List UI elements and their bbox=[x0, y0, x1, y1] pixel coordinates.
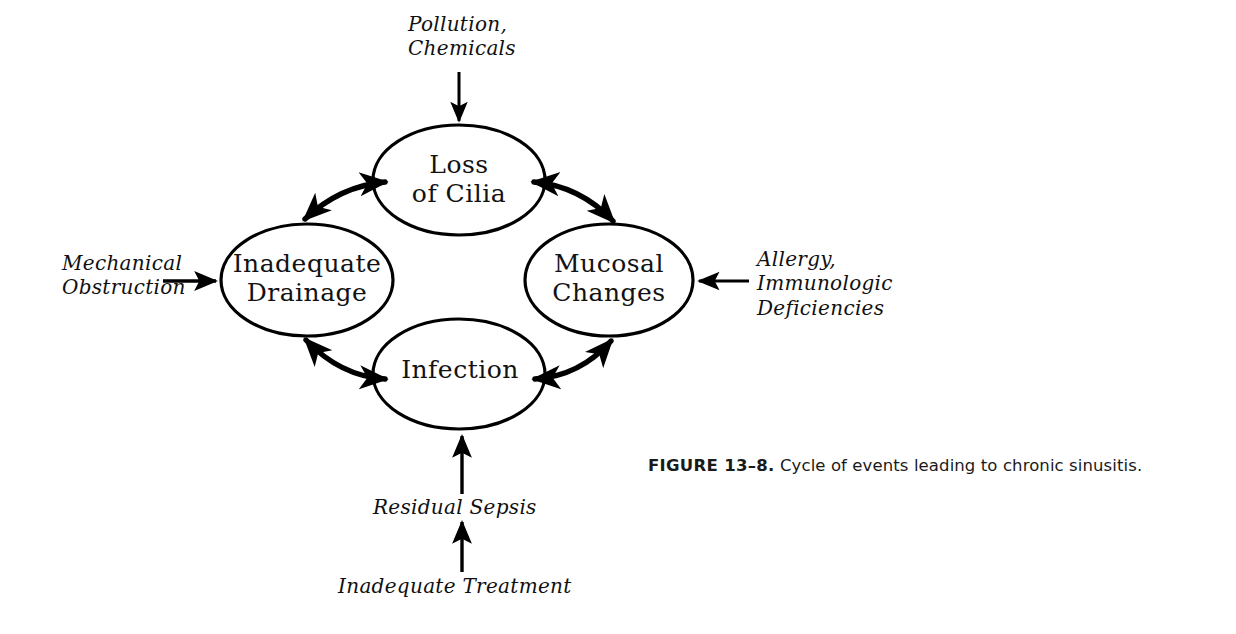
annotation-mechanical-obstruction: Mechanical Obstruction bbox=[62, 251, 212, 300]
node-loss-of-cilia bbox=[373, 125, 545, 235]
node-inadequate-drainage-ellipse bbox=[221, 224, 393, 336]
annotation-residual-sepsis: Residual Sepsis bbox=[373, 495, 603, 519]
figure-caption-text: Cycle of events leading to chronic sinus… bbox=[775, 456, 1143, 475]
figure-caption: FIGURE 13–8. Cycle of events leading to … bbox=[648, 455, 1208, 476]
annotation-pollution-chemicals: Pollution, Chemicals bbox=[408, 12, 608, 61]
annotation-allergy-immunologic: Allergy, Immunologic Deficiencies bbox=[757, 247, 957, 320]
link-cilia-mucosal bbox=[534, 182, 613, 221]
node-mucosal-changes-ellipse bbox=[525, 224, 693, 336]
figure-diagram-canvas bbox=[0, 0, 1236, 634]
figure-caption-number: FIGURE 13–8. bbox=[648, 456, 775, 475]
node-loss-of-cilia-ellipse bbox=[373, 125, 545, 235]
node-mucosal-changes bbox=[525, 224, 693, 336]
node-infection bbox=[373, 319, 545, 429]
node-infection-ellipse bbox=[373, 319, 545, 429]
annotation-inadequate-treatment: Inadequate Treatment bbox=[338, 574, 638, 598]
node-inadequate-drainage bbox=[221, 224, 393, 336]
